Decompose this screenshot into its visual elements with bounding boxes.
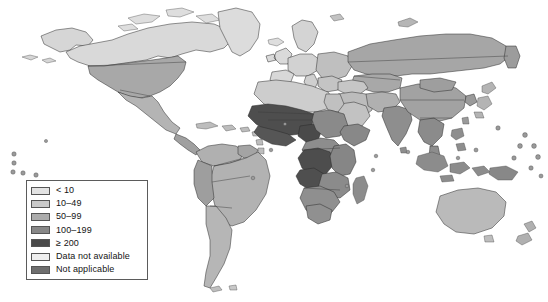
legend-swatch-gte-200: [31, 239, 50, 247]
legend-item: 50–99: [31, 210, 143, 223]
region-aleutians: [22, 55, 56, 63]
region-madagascar: [353, 176, 368, 204]
world-incidence-map-figure: < 10 10–49 50–99 100–199 ≥ 200 Data not …: [0, 0, 548, 302]
legend-item: 10–49: [31, 197, 143, 210]
region-peru-bolivia: [194, 160, 214, 206]
legend-label-data-not-available: Data not available: [56, 252, 130, 261]
region-japan: [474, 82, 496, 118]
legend-swatch-100-199: [31, 226, 50, 234]
legend-swatch-data-not-available: [31, 253, 50, 261]
region-svalbard: [330, 14, 344, 21]
legend-label-lt-10: < 10: [56, 186, 74, 195]
legend-swatch-not-applicable: [31, 266, 50, 274]
region-novaya-zemlya: [398, 18, 418, 27]
legend-swatch-lt-10: [31, 187, 50, 195]
region-kamchatka: [504, 46, 520, 68]
map-legend: < 10 10–49 50–99 100–199 ≥ 200 Data not …: [26, 180, 148, 280]
region-tasmania: [484, 235, 494, 242]
region-greenland: [218, 8, 260, 56]
region-western-europe: [288, 54, 320, 76]
region-canada: [66, 22, 232, 66]
region-taiwan: [462, 117, 469, 124]
region-iceland: [268, 38, 284, 46]
legend-label-not-applicable: Not applicable: [56, 265, 114, 274]
region-sri-lanka: [400, 147, 407, 153]
region-korea: [465, 94, 477, 106]
legend-item: < 10: [31, 184, 143, 197]
region-new-zealand: [516, 221, 536, 245]
region-russia: [348, 34, 510, 76]
region-philippines: [451, 128, 466, 151]
region-india: [382, 106, 412, 146]
region-mexico: [118, 92, 180, 134]
region-southeast-asia-mainland: [418, 118, 444, 146]
legend-label-100-199: 100–199: [56, 226, 92, 235]
region-falkland-islands: [229, 285, 237, 290]
legend-item: Data not available: [31, 250, 143, 263]
legend-label-50-99: 50–99: [56, 212, 82, 221]
region-ethiopia-horn: [340, 124, 370, 146]
region-east-africa: [330, 144, 356, 176]
region-australia: [436, 188, 506, 234]
region-scandinavia: [292, 20, 318, 52]
region-papua-new-guinea: [489, 166, 518, 180]
legend-item: 100–199: [31, 224, 143, 237]
region-indonesia: [416, 152, 490, 182]
region-tierra-del-fuego: [210, 286, 222, 292]
legend-item: ≥ 200: [31, 237, 143, 250]
legend-item: Not applicable: [31, 263, 143, 276]
legend-swatch-50-99: [31, 213, 50, 221]
legend-label-gte-200: ≥ 200: [56, 239, 79, 248]
legend-label-10-49: 10–49: [56, 199, 82, 208]
legend-swatch-10-49: [31, 200, 50, 208]
region-eastern-europe: [316, 52, 352, 80]
